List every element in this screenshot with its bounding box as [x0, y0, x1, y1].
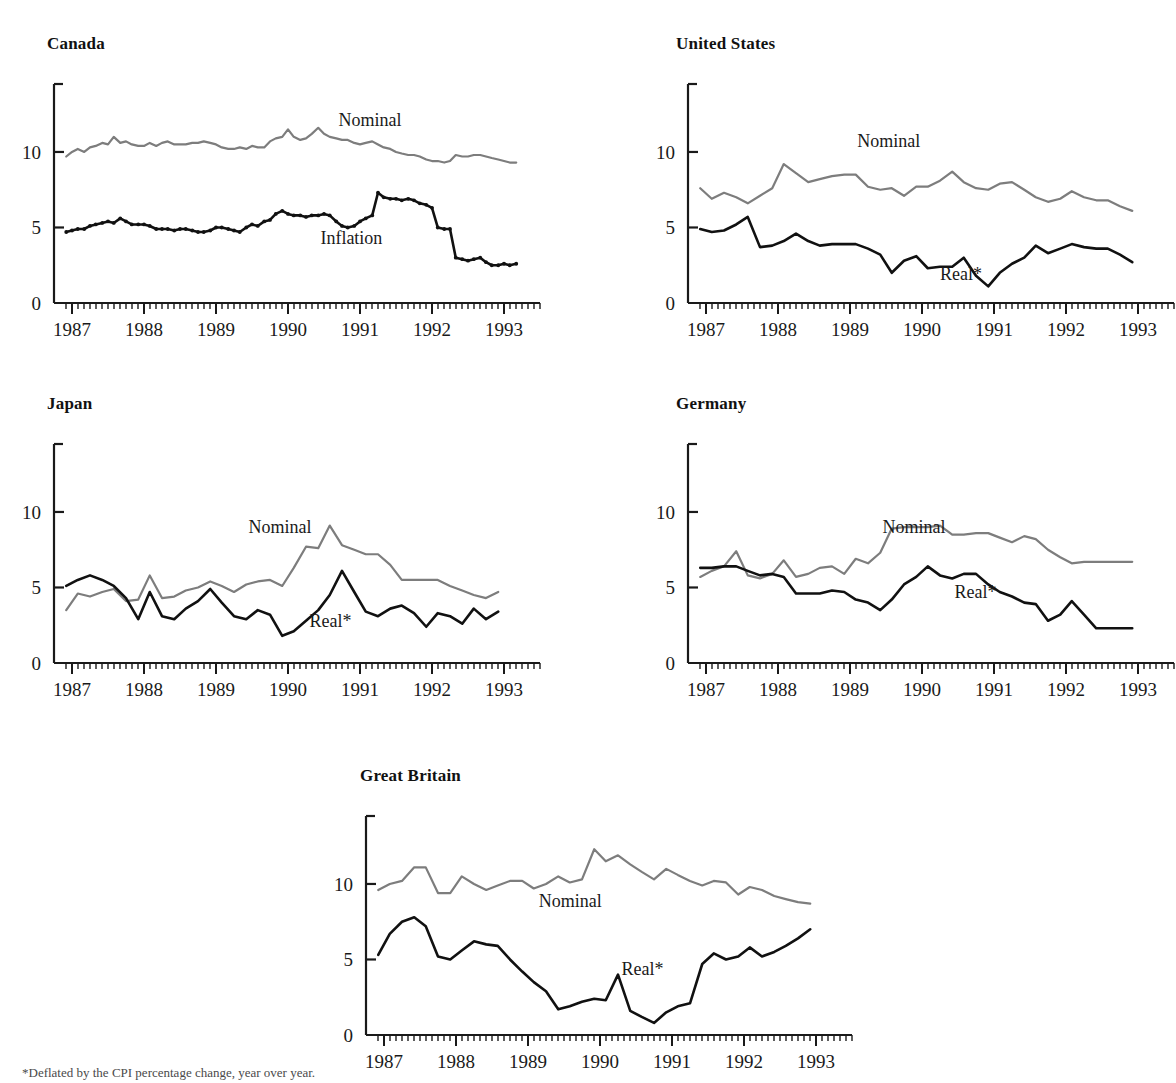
- data-point-marker: [376, 191, 380, 195]
- data-point-marker: [160, 227, 164, 231]
- series-annotation: Real*: [940, 264, 982, 284]
- x-tick-label: 1987: [53, 679, 91, 700]
- data-point-marker: [220, 226, 224, 230]
- data-point-marker: [202, 230, 206, 234]
- x-tick-label: 1988: [759, 319, 797, 340]
- series-annotation: Nominal: [338, 110, 401, 130]
- x-tick-label: 1991: [975, 319, 1013, 340]
- data-point-marker: [136, 223, 140, 227]
- data-point-marker: [316, 214, 320, 218]
- x-tick-label: 1992: [1047, 679, 1085, 700]
- panel-germany: Germany05101987198819891990199119921993N…: [588, 368, 1176, 720]
- data-point-marker: [268, 218, 272, 222]
- series-line-nominal: [66, 526, 498, 611]
- series-line-real-: [378, 917, 810, 1023]
- data-point-marker: [64, 230, 68, 234]
- x-tick-label: 1991: [341, 679, 379, 700]
- plot-area: 05101987198819891990199119921993NominalR…: [588, 368, 1176, 720]
- x-tick-label: 1990: [903, 319, 941, 340]
- series-annotation: Nominal: [248, 517, 311, 537]
- x-tick-label: 1990: [269, 679, 307, 700]
- y-tick-label: 5: [32, 577, 42, 598]
- data-point-marker: [412, 198, 416, 202]
- data-point-marker: [466, 259, 470, 263]
- data-point-marker: [178, 227, 182, 231]
- data-point-marker: [148, 224, 152, 228]
- data-point-marker: [112, 221, 116, 225]
- panel-title: Canada: [47, 34, 105, 54]
- x-tick-label: 1989: [831, 319, 869, 340]
- data-point-marker: [130, 223, 134, 227]
- y-tick-label: 5: [666, 577, 676, 598]
- data-point-marker: [196, 230, 200, 234]
- series-annotation: Nominal: [882, 517, 945, 537]
- x-tick-label: 1992: [725, 1051, 763, 1072]
- data-point-marker: [154, 227, 158, 231]
- data-point-marker: [238, 230, 242, 234]
- y-tick-label: 10: [656, 502, 675, 523]
- series-annotation: Nominal: [539, 891, 602, 911]
- data-point-marker: [142, 223, 146, 227]
- x-tick-label: 1987: [687, 679, 725, 700]
- x-tick-label: 1989: [197, 319, 235, 340]
- x-tick-label: 1987: [687, 319, 725, 340]
- x-tick-label: 1989: [197, 679, 235, 700]
- y-tick-label: 10: [334, 874, 353, 895]
- y-tick-label: 0: [666, 293, 676, 314]
- data-point-marker: [334, 220, 338, 224]
- data-point-marker: [436, 226, 440, 230]
- plot-area: 05101987198819891990199119921993NominalI…: [0, 8, 588, 360]
- y-tick-label: 10: [656, 142, 675, 163]
- data-point-marker: [208, 229, 212, 233]
- plot-area: 05101987198819891990199119921993NominalR…: [294, 740, 882, 1083]
- data-point-marker: [478, 256, 482, 260]
- series-annotation: Real*: [622, 959, 664, 979]
- x-tick-label: 1987: [53, 319, 91, 340]
- data-point-marker: [310, 214, 314, 218]
- panel-canada: Canada05101987198819891990199119921993No…: [0, 8, 588, 360]
- data-point-marker: [400, 198, 404, 202]
- x-tick-label: 1993: [797, 1051, 835, 1072]
- data-point-marker: [100, 221, 104, 225]
- data-point-marker: [184, 227, 188, 231]
- figure-footnote: *Deflated by the CPI percentage change, …: [22, 1065, 315, 1081]
- y-tick-label: 5: [32, 217, 42, 238]
- data-point-marker: [406, 197, 410, 201]
- plot-area: 05101987198819891990199119921993NominalR…: [588, 8, 1176, 360]
- series-annotation: Real*: [954, 582, 996, 602]
- panel-title: Germany: [676, 394, 746, 414]
- x-tick-label: 1992: [413, 679, 451, 700]
- x-tick-label: 1992: [413, 319, 451, 340]
- data-point-marker: [298, 214, 302, 218]
- y-tick-label: 5: [666, 217, 676, 238]
- data-point-marker: [76, 227, 80, 231]
- data-point-marker: [460, 257, 464, 261]
- data-point-marker: [472, 257, 476, 261]
- data-point-marker: [442, 227, 446, 231]
- x-tick-label: 1991: [341, 319, 379, 340]
- data-point-marker: [250, 223, 254, 227]
- series-annotation: Nominal: [857, 131, 920, 151]
- series-line-nominal: [66, 128, 516, 163]
- data-point-marker: [70, 229, 74, 233]
- x-tick-label: 1993: [485, 319, 523, 340]
- data-point-marker: [214, 226, 218, 230]
- x-tick-label: 1993: [1119, 319, 1157, 340]
- data-point-marker: [304, 215, 308, 219]
- data-point-marker: [232, 229, 236, 233]
- data-point-marker: [166, 227, 170, 231]
- data-point-marker: [484, 260, 488, 264]
- data-point-marker: [118, 217, 122, 221]
- y-tick-label: 10: [22, 142, 41, 163]
- data-point-marker: [370, 214, 374, 218]
- panel-great-britain: Great Britain051019871988198919901991199…: [294, 740, 882, 1083]
- data-point-marker: [226, 227, 230, 231]
- y-tick-label: 0: [344, 1025, 354, 1046]
- x-tick-label: 1993: [485, 679, 523, 700]
- x-tick-label: 1991: [975, 679, 1013, 700]
- data-point-marker: [244, 226, 248, 230]
- panel-japan: Japan05101987198819891990199119921993Nom…: [0, 368, 588, 720]
- series-annotation: Inflation: [320, 228, 382, 248]
- x-tick-label: 1989: [831, 679, 869, 700]
- panel-title: Japan: [47, 394, 92, 414]
